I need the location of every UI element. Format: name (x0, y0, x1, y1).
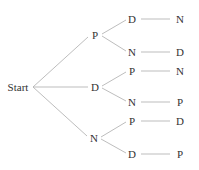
edge-l1_p-l2_pn (102, 36, 126, 51)
edge-l1_n-l2_nd (101, 139, 126, 153)
node-l3_npd: D (176, 115, 184, 127)
tree-diagram: Start PDNDNPNPDNDNPDP (0, 0, 199, 170)
node-l2_nd: D (128, 148, 136, 160)
edge-start-l1_p (33, 37, 88, 87)
edge-l1_p-l2_pd (102, 20, 126, 34)
edge-start-l1_n (33, 87, 87, 136)
node-l2_pd: D (128, 13, 136, 25)
node-l3_pnd: D (176, 46, 184, 58)
node-l2_np: P (129, 115, 135, 127)
node-l1_p: P (92, 29, 98, 41)
node-l2_dn: N (128, 96, 136, 108)
edge-l1_n-l2_np (101, 122, 126, 137)
node-l3_ndp: P (177, 148, 183, 160)
start-node-label: Start (8, 81, 29, 93)
node-l2_pn: N (128, 46, 136, 58)
tree-edges (33, 19, 170, 154)
node-l2_dp: P (129, 65, 135, 77)
edge-l1_d-l2_dn (102, 88, 126, 101)
edge-l1_d-l2_dp (102, 72, 126, 86)
node-l3_pdn: N (176, 13, 184, 25)
node-l3_dnp: P (177, 96, 183, 108)
node-l1_d: D (91, 81, 99, 93)
node-l1_n: N (90, 132, 98, 144)
node-l3_dpn: N (176, 65, 184, 77)
